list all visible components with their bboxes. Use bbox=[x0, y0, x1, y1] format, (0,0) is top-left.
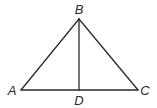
vertex-label-c: C bbox=[140, 83, 150, 98]
point-label-d: D bbox=[74, 93, 83, 108]
segment-bc bbox=[79, 19, 138, 90]
triangle-diagram: A B C D bbox=[0, 0, 157, 108]
vertex-label-b: B bbox=[75, 2, 84, 17]
segment-ab bbox=[21, 19, 79, 90]
vertex-label-a: A bbox=[7, 83, 17, 98]
